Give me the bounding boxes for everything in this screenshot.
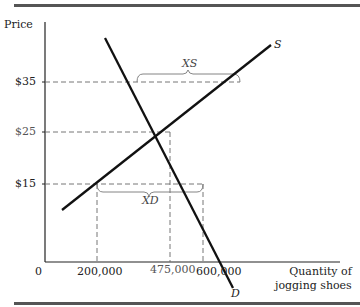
demand-curve xyxy=(105,38,233,288)
tick-label-35: $35 xyxy=(15,75,36,88)
tick-label-475k: 475,000 xyxy=(150,263,196,276)
tick-label-15: $15 xyxy=(15,177,36,190)
xs-label: XS xyxy=(182,57,197,70)
supply-curve xyxy=(62,45,271,210)
y-axis-label: Price xyxy=(4,18,33,31)
tick-label-200k: 200,000 xyxy=(77,265,123,278)
tick-label-0: 0 xyxy=(35,265,42,278)
chart-plot xyxy=(0,0,360,307)
tick-label-25: $25 xyxy=(15,125,36,138)
x-axis-label: Quantity of jogging shoes xyxy=(275,265,352,293)
demand-label: D xyxy=(231,287,240,300)
xd-label: XD xyxy=(142,194,159,207)
supply-label: S xyxy=(274,38,282,51)
tick-label-600k: 600,000 xyxy=(196,265,242,278)
x-axis-label-line2: jogging shoes xyxy=(275,279,352,293)
xs-brace xyxy=(137,70,240,82)
x-axis-label-line1: Quantity of xyxy=(275,265,352,279)
